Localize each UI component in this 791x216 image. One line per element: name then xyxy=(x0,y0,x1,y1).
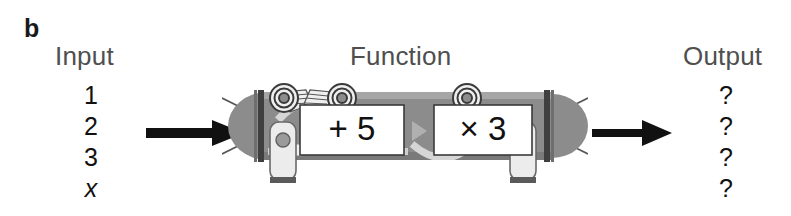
operation-panel-multiply: × 3 xyxy=(434,105,532,155)
input-value: 1 xyxy=(56,80,126,111)
machine-seam-right2 xyxy=(551,90,554,162)
operation-label-add: + 5 xyxy=(329,110,376,147)
panel-letter: b xyxy=(24,16,39,41)
input-column-heading: Input xyxy=(55,43,114,69)
output-value: ? xyxy=(691,111,761,142)
output-value: ? xyxy=(691,80,761,111)
machine-seam-left xyxy=(258,90,264,162)
operation-panel-add: + 5 xyxy=(300,105,404,155)
output-column-heading: Output xyxy=(683,43,762,69)
input-value-variable: x xyxy=(56,173,126,204)
function-column-heading: Function xyxy=(350,43,451,69)
input-values-list: 1 2 3 x xyxy=(56,80,126,204)
machine-seam-left2 xyxy=(254,90,257,162)
output-value: ? xyxy=(691,173,761,204)
figure-panel-b: b Input Function Output 1 2 3 x ? ? ? ? xyxy=(0,0,791,216)
input-value: 3 xyxy=(56,142,126,173)
input-value: 2 xyxy=(56,111,126,142)
operation-label-multiply: × 3 xyxy=(460,110,507,147)
output-value: ? xyxy=(691,142,761,173)
function-machine-illustration: + 5 × 3 xyxy=(222,78,588,190)
machine-lever-left xyxy=(270,122,296,183)
machine-seam-right xyxy=(544,90,550,162)
output-values-list: ? ? ? ? xyxy=(691,80,761,204)
output-arrow-icon xyxy=(592,118,674,152)
